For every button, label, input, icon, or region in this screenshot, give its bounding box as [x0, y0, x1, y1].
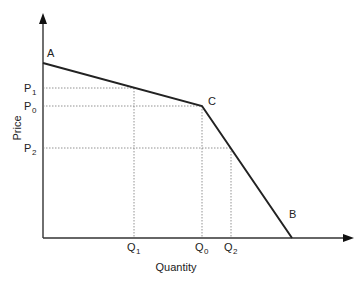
- y-tick-p0: P0: [24, 100, 37, 115]
- x-axis-title: Quantity: [156, 261, 197, 273]
- svg-text:Q: Q: [224, 241, 233, 253]
- demand-curve: [43, 63, 292, 238]
- svg-text:2: 2: [233, 247, 238, 256]
- x-tick-q1: Q1: [127, 241, 141, 256]
- point-b-label: B: [289, 208, 296, 220]
- x-axis-arrow-icon: [343, 234, 354, 242]
- y-tick-p2: P2: [24, 142, 37, 157]
- guide-lines: [43, 88, 231, 238]
- y-axis-arrow-icon: [39, 13, 47, 24]
- svg-text:Q: Q: [127, 241, 136, 253]
- y-tick-p1: P1: [24, 82, 37, 97]
- svg-text:1: 1: [32, 88, 37, 97]
- point-a-label: A: [47, 47, 55, 59]
- svg-text:P: P: [24, 82, 31, 94]
- kinked-demand-diagram: A C B P1 P0 P2 Q1 Q0 Q2 Quantity Price: [0, 0, 364, 284]
- svg-text:2: 2: [32, 148, 37, 157]
- svg-text:P: P: [24, 142, 31, 154]
- svg-text:0: 0: [32, 106, 37, 115]
- x-tick-q0: Q0: [195, 241, 209, 256]
- svg-text:P: P: [24, 100, 31, 112]
- svg-text:1: 1: [136, 247, 141, 256]
- point-c-label: C: [208, 95, 216, 107]
- x-tick-q2: Q2: [224, 241, 238, 256]
- svg-text:0: 0: [204, 247, 209, 256]
- y-axis-title: Price: [11, 115, 23, 140]
- svg-text:Q: Q: [195, 241, 204, 253]
